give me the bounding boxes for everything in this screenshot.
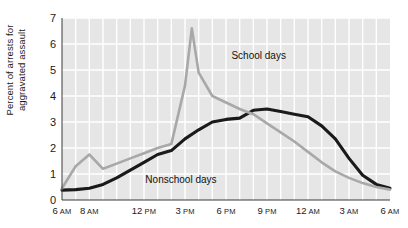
x-tick-ampm: AM xyxy=(386,207,400,216)
x-tick-ampm: AM xyxy=(307,207,321,216)
x-tick-ampm: AM xyxy=(345,207,359,216)
y-tick-label: 6 xyxy=(38,39,56,50)
x-tick-label: 12 PM xyxy=(132,206,157,217)
x-tick-ampm: PM xyxy=(222,207,236,216)
y-tick-label: 1 xyxy=(38,169,56,180)
y-tick-label: 2 xyxy=(38,143,56,154)
y-tick-label: 0 xyxy=(38,195,56,206)
x-tick-label: 6 PM xyxy=(216,206,235,217)
x-tick-ampm: PM xyxy=(142,207,156,216)
x-tick-ampm: PM xyxy=(263,207,277,216)
x-tick-label: 8 AM xyxy=(80,206,99,217)
x-tick-ampm: PM xyxy=(181,207,195,216)
x-tick-ampm: AM xyxy=(85,207,99,216)
chart-figure: Percent of arrests for aggravated assaul… xyxy=(0,0,408,228)
y-tick-label: 7 xyxy=(38,13,56,24)
plot-area xyxy=(0,0,408,228)
y-tick-label: 4 xyxy=(38,91,56,102)
y-axis-label: Percent of arrests for aggravated assaul… xyxy=(4,10,28,130)
x-tick-hour: 12 xyxy=(132,205,143,216)
x-tick-label: 3 PM xyxy=(175,206,194,217)
x-tick-ampm: AM xyxy=(58,207,72,216)
x-tick-label: 9 PM xyxy=(257,206,276,217)
x-tick-label: 3 AM xyxy=(340,206,359,217)
x-tick-label: 6 AM xyxy=(381,206,400,217)
series-label: School days xyxy=(231,50,285,61)
x-tick-label: 6 AM xyxy=(53,206,72,217)
y-tick-label: 3 xyxy=(38,117,56,128)
series-label: Nonschool days xyxy=(145,174,216,185)
y-tick-label: 5 xyxy=(38,65,56,76)
x-tick-hour: 12 xyxy=(296,205,307,216)
x-tick-label: 12 AM xyxy=(296,206,320,217)
